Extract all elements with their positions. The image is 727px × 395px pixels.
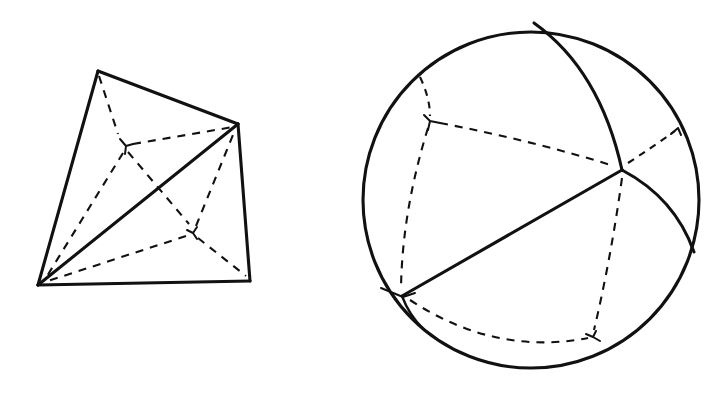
diagram-canvas (0, 0, 727, 395)
figure-root (0, 0, 727, 395)
